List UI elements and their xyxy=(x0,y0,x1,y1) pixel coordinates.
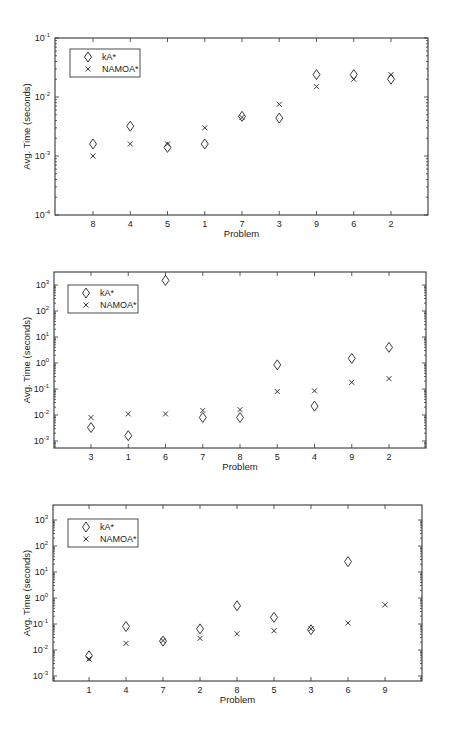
x-tick-label: 3 xyxy=(308,685,313,695)
x-tick-label: 9 xyxy=(382,685,387,695)
y-tick-label: 10-3 xyxy=(35,150,51,161)
y-tick-label: 10-2 xyxy=(35,91,51,102)
legend-label-namoa: NAMOA* xyxy=(100,300,137,310)
x-tick-label: 6 xyxy=(351,219,356,229)
y-tick-label: 10-3 xyxy=(34,435,50,446)
y-axis-label: Avg. Time (seconds) xyxy=(21,317,32,403)
y-tick-label: 103 xyxy=(36,279,50,290)
legend: kA*NAMOA* xyxy=(68,285,138,313)
x-tick-label: 2 xyxy=(197,685,202,695)
x-tick-label: 7 xyxy=(160,685,165,695)
x-tick-label: 4 xyxy=(312,452,317,462)
x-tick-label: 9 xyxy=(349,452,354,462)
x-tick-label: 1 xyxy=(86,685,91,695)
chart-2: 10-310-210-1100101102103316785492Problem… xyxy=(0,240,449,480)
x-tick-label: 1 xyxy=(126,452,131,462)
x-tick-label: 6 xyxy=(163,452,168,462)
chart-3: 10-310-210-1100101102103147285369Problem… xyxy=(0,480,449,729)
legend: kA*NAMOA* xyxy=(70,49,140,77)
y-tick-label: 10-4 xyxy=(35,209,51,220)
x-tick-label: 8 xyxy=(90,219,95,229)
x-tick-label: 6 xyxy=(345,685,350,695)
x-tick-label: 7 xyxy=(200,452,205,462)
y-tick-label: 10-3 xyxy=(33,670,49,681)
y-tick-label: 10-1 xyxy=(34,383,50,394)
y-tick-label: 103 xyxy=(35,514,49,525)
y-tick-label: 102 xyxy=(36,305,50,316)
x-tick-label: 5 xyxy=(165,219,170,229)
y-tick-label: 10-2 xyxy=(34,409,50,420)
x-axis-label: Problem xyxy=(224,228,259,239)
legend-label-ka: kA* xyxy=(100,288,115,298)
x-axis-label: Problem xyxy=(222,461,257,472)
y-axis-label: Avg. Time (seconds) xyxy=(21,550,32,636)
x-tick-label: 3 xyxy=(88,452,93,462)
y-tick-label: 100 xyxy=(35,592,49,603)
legend-label-namoa: NAMOA* xyxy=(100,534,137,544)
y-axis-label: Avg. Time (seconds) xyxy=(21,83,32,169)
x-tick-label: 5 xyxy=(275,452,280,462)
y-tick-label: 10-1 xyxy=(35,32,51,43)
y-tick-label: 101 xyxy=(35,566,49,577)
x-tick-label: 1 xyxy=(202,219,207,229)
y-tick-label: 100 xyxy=(36,357,50,368)
chart-1: 10-410-310-210-1845173962ProblemAvg. Tim… xyxy=(0,0,449,240)
x-tick-label: 4 xyxy=(128,219,133,229)
y-tick-label: 102 xyxy=(35,540,49,551)
legend: kA*NAMOA* xyxy=(68,519,138,547)
legend-label-ka: kA* xyxy=(100,522,115,532)
y-tick-label: 10-1 xyxy=(33,618,49,629)
x-tick-label: 9 xyxy=(314,219,319,229)
y-tick-label: 10-2 xyxy=(33,644,49,655)
x-tick-label: 2 xyxy=(386,452,391,462)
y-tick-label: 101 xyxy=(36,331,50,342)
x-tick-label: 3 xyxy=(277,219,282,229)
legend-label-ka: kA* xyxy=(102,52,117,62)
x-tick-label: 2 xyxy=(388,219,393,229)
x-tick-label: 5 xyxy=(271,685,276,695)
x-axis-label: Problem xyxy=(220,694,255,705)
legend-label-namoa: NAMOA* xyxy=(102,64,139,74)
x-tick-label: 4 xyxy=(123,685,128,695)
